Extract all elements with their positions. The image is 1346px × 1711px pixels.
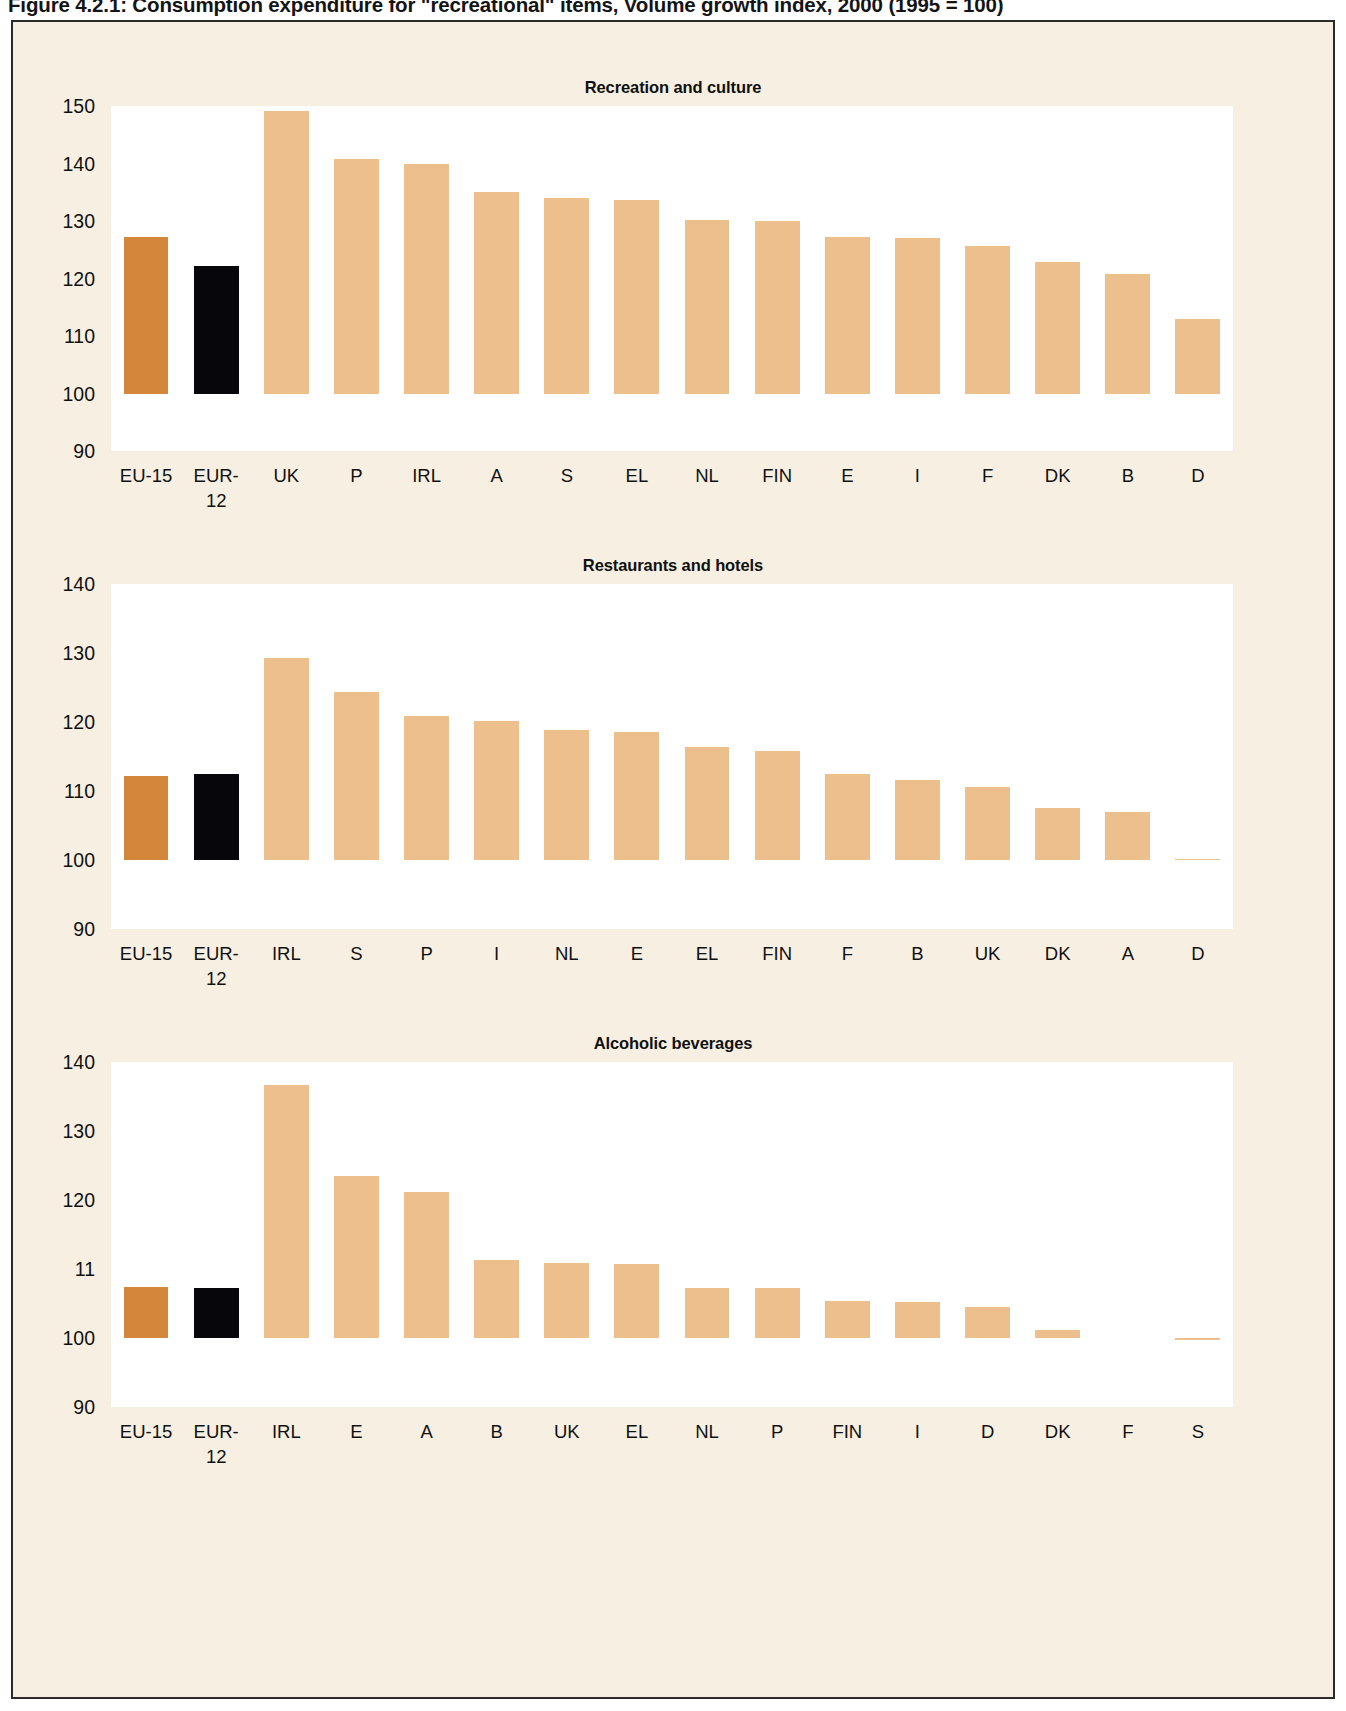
bar-d[interactable] <box>1175 319 1220 394</box>
bar-slot <box>953 106 1023 451</box>
bar-fin[interactable] <box>755 221 800 394</box>
bar-dk[interactable] <box>1035 1330 1080 1338</box>
bar-nl[interactable] <box>685 220 730 393</box>
x-axis-tick: F <box>1093 1419 1163 1444</box>
bar-slot <box>532 1062 602 1407</box>
x-axis-tick-line: IRL <box>251 941 321 966</box>
y-axis-tick: 150 <box>62 95 95 118</box>
bar-eu-15[interactable] <box>124 776 169 860</box>
x-axis-tick-line: D <box>1163 941 1233 966</box>
bar-b[interactable] <box>1105 274 1150 394</box>
bar-uk[interactable] <box>264 111 309 394</box>
bar-slot <box>532 584 602 929</box>
x-axis-tick: P <box>392 941 462 966</box>
bar-a[interactable] <box>404 1192 449 1338</box>
bar-e[interactable] <box>334 1176 379 1338</box>
plot-area <box>111 584 1233 929</box>
bar-p[interactable] <box>334 159 379 394</box>
bar-slot <box>882 106 952 451</box>
bar-i[interactable] <box>474 721 519 860</box>
bar-d[interactable] <box>965 1307 1010 1338</box>
x-axis-tick-line: 12 <box>181 488 251 513</box>
bar-f[interactable] <box>965 246 1010 394</box>
bar-s[interactable] <box>1175 1338 1220 1340</box>
x-axis-tick-line: B <box>462 1419 532 1444</box>
bar-nl[interactable] <box>544 730 589 860</box>
bar-el[interactable] <box>614 200 659 393</box>
x-axis-tick-line: A <box>1093 941 1163 966</box>
bar-a[interactable] <box>474 192 519 394</box>
y-axis-tick: 90 <box>73 440 95 463</box>
bar-slot <box>882 584 952 929</box>
bar-p[interactable] <box>755 1288 800 1338</box>
x-axis-tick: IRL <box>251 1419 321 1444</box>
bar-fin[interactable] <box>825 1301 870 1338</box>
bar-i[interactable] <box>895 238 940 394</box>
x-axis-tick-line: S <box>532 463 602 488</box>
bar-fin[interactable] <box>755 751 800 860</box>
x-axis-tick: NL <box>532 941 602 966</box>
bar-slot <box>742 1062 812 1407</box>
bar-slot <box>672 106 742 451</box>
bar-eu-15[interactable] <box>124 237 169 394</box>
x-axis-tick: P <box>742 1419 812 1444</box>
x-axis-tick: D <box>1163 941 1233 966</box>
x-axis-tick: I <box>462 941 532 966</box>
bar-el[interactable] <box>685 747 730 860</box>
bar-group <box>111 1062 1233 1407</box>
chart-title: Restaurants and hotels <box>13 556 1333 575</box>
bar-p[interactable] <box>404 716 449 860</box>
chart-title: Alcoholic beverages <box>13 1034 1333 1053</box>
y-axis-tick: 100 <box>62 1327 95 1350</box>
x-axis: EU-15EUR-12UKPIRLASELNLFINEIFDKBD <box>111 463 1233 535</box>
x-axis-tick-line: FIN <box>742 463 812 488</box>
bar-slot <box>742 106 812 451</box>
bar-eur-12[interactable] <box>194 266 239 394</box>
bar-irl[interactable] <box>264 658 309 860</box>
x-axis-tick-line: DK <box>1023 941 1093 966</box>
bar-irl[interactable] <box>404 164 449 394</box>
x-axis-tick-line: A <box>462 463 532 488</box>
bar-dk[interactable] <box>1035 262 1080 394</box>
x-axis-tick-line: UK <box>953 941 1023 966</box>
bar-slot <box>532 106 602 451</box>
bar-nl[interactable] <box>685 1288 730 1338</box>
y-axis-tick: 140 <box>62 1051 95 1074</box>
x-axis-tick: EU-15 <box>111 941 181 966</box>
bar-uk[interactable] <box>965 787 1010 860</box>
x-axis-tick-line: NL <box>672 463 742 488</box>
plot-area <box>111 1062 1233 1407</box>
x-axis-tick: D <box>1163 463 1233 488</box>
bar-d[interactable] <box>1175 859 1220 860</box>
x-axis-tick: I <box>882 463 952 488</box>
bar-s[interactable] <box>544 198 589 394</box>
y-axis-tick: 130 <box>62 210 95 233</box>
bar-irl[interactable] <box>264 1085 309 1338</box>
bar-b[interactable] <box>895 780 940 860</box>
x-axis-tick: EUR-12 <box>181 1419 251 1469</box>
x-axis-tick: FIN <box>742 463 812 488</box>
bar-s[interactable] <box>334 692 379 860</box>
bar-dk[interactable] <box>1035 808 1080 860</box>
bar-a[interactable] <box>1105 812 1150 860</box>
bar-eur-12[interactable] <box>194 1288 239 1338</box>
bar-chart-1: Restaurants and hotels14013012011010090E… <box>13 556 1333 1026</box>
x-axis-tick: EUR-12 <box>181 941 251 991</box>
x-axis: EU-15EUR-12IRLEABUKELNLPFINIDDKFS <box>111 1419 1233 1491</box>
bar-b[interactable] <box>474 1260 519 1338</box>
x-axis-tick-line: 12 <box>181 966 251 991</box>
bar-e[interactable] <box>825 237 870 394</box>
bar-f[interactable] <box>825 774 870 860</box>
bar-el[interactable] <box>614 1264 659 1338</box>
bar-slot <box>1093 584 1163 929</box>
bar-eur-12[interactable] <box>194 774 239 860</box>
bar-eu-15[interactable] <box>124 1287 169 1338</box>
x-axis-tick-line: F <box>953 463 1023 488</box>
y-axis-tick: 90 <box>73 918 95 941</box>
bar-i[interactable] <box>895 1302 940 1338</box>
bar-e[interactable] <box>614 732 659 860</box>
x-axis-tick-line: P <box>321 463 391 488</box>
y-axis-tick: 90 <box>73 1396 95 1419</box>
bar-uk[interactable] <box>544 1263 589 1338</box>
x-axis-tick-line: F <box>1093 1419 1163 1444</box>
